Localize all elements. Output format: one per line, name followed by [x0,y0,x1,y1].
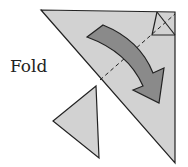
small-triangle [53,86,99,158]
fold-label: Fold [10,56,47,76]
diagram-canvas [0,0,188,167]
fold-diagram: Fold [0,0,188,167]
